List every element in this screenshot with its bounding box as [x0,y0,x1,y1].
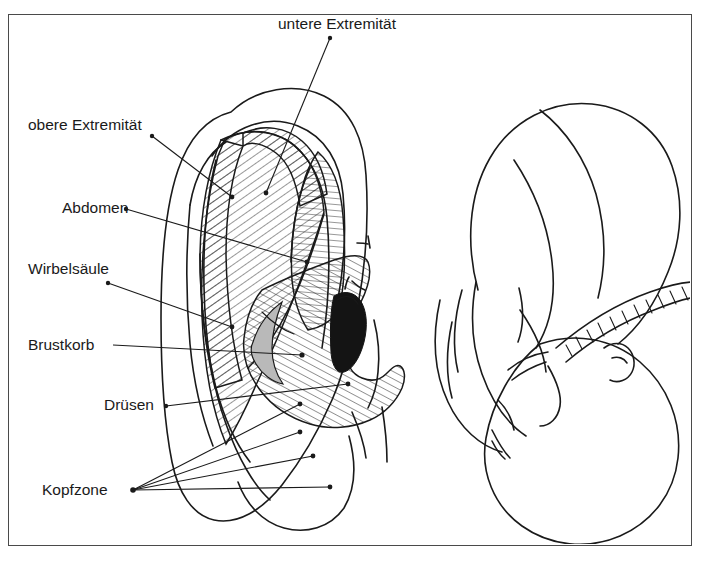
leader-target-kopfzone-2 [298,430,303,435]
label-brustkorb: Brustkorb [28,336,94,353]
label-untere-extremitaet: untere Extremität [278,15,397,32]
label-druesen: Drüsen [104,396,154,413]
fetus-torso-front [473,282,526,436]
label-wirbelsaeule: Wirbelsäule [28,260,109,277]
ear-tragus-mark-3 [357,243,368,244]
ear-diagram [161,89,404,531]
fetus-face-chin [540,366,560,426]
fetus-arm-upper [514,160,553,348]
fetus-diagram [435,103,697,544]
leader-target-kopfzone-3 [311,454,316,459]
fetus-knee-fold [455,290,462,372]
leader-kopfzone-2 [133,432,300,490]
fetus-shoulder-crease [518,288,523,342]
fetus-head [485,338,679,544]
leader-target-untere-extremitaet [264,191,269,196]
leader-target-druesen [346,382,351,387]
label-obere-extremitaet: obere Extremität [28,116,142,133]
zone-gehoergang [330,293,366,373]
fetus-neck-crease-2 [512,362,546,380]
leader-kopfzone-3 [133,456,313,490]
leader-target-kopfzone-1 [298,402,303,407]
label-kopfzone: Kopfzone [42,481,108,498]
fetus-back-outline [471,103,680,344]
leader-target-obere-extremitaet [230,195,235,200]
leader-dot-druesen [164,404,168,408]
ear-tragus-mark-4 [368,236,370,248]
leader-dot-obere-extremitaet [150,134,154,138]
leader-kopfzone-4 [133,487,330,490]
fetus-head-ear-inner [612,357,627,363]
fetus-body-inner [540,110,604,298]
fetus-leg-crease [448,322,453,398]
leader-target-abdomen [305,260,310,265]
label-abdomen: Abdomen [62,199,128,216]
figure-svg: untere Extremität obere Extremität Abdom… [0,0,701,561]
fetus-foot [492,430,510,458]
figure-canvas: untere Extremität obere Extremität Abdom… [0,0,701,561]
fetus-leg-outer [435,300,502,452]
leader-target-wirbelsaeule [230,325,235,330]
leader-dot-kopfzone [130,487,136,493]
fetus-cord-hatching [566,287,688,356]
leader-dot-untere-extremitaet [328,36,332,40]
fetus-head-ear [604,344,634,382]
leader-dot-wirbelsaeule [106,281,110,285]
fetus-shoulder-blob [498,400,514,430]
leader-target-brustkorb [299,352,304,357]
ear-lobe-crease [382,407,387,462]
leader-target-kopfzone-4 [328,485,333,490]
